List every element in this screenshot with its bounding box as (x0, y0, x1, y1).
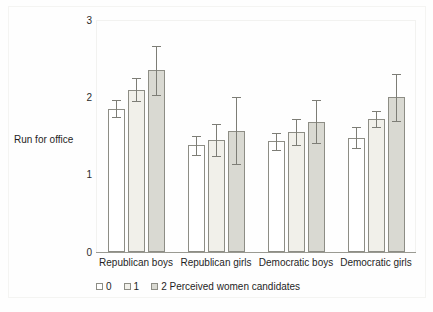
error-bar-stem (276, 133, 277, 150)
error-bar-stem (236, 97, 237, 164)
bar-democratic-girls-series-1 (368, 119, 385, 252)
x-axis-label-republican-girls: Republican girls (176, 257, 256, 268)
error-bar-cap-upper (232, 97, 241, 98)
legend-label-1: 1 (134, 281, 140, 292)
error-bar-cap-lower (272, 150, 281, 151)
bar-republican-boys-series-1 (128, 90, 145, 252)
error-bar-cap-lower (352, 148, 361, 149)
y-tick-label-2: 2 (68, 92, 92, 103)
y-tick-label-1: 1 (68, 169, 92, 180)
error-bar-cap-upper (392, 74, 401, 75)
error-bar-cap-upper (312, 100, 321, 101)
error-bar-cap-lower (192, 155, 201, 156)
error-bar-cap-upper (352, 127, 361, 128)
legend-swatch-icon-0 (96, 283, 103, 290)
legend-label-0: 0 (106, 281, 112, 292)
error-bar-cap-upper (152, 46, 161, 47)
error-bar-cap-lower (292, 145, 301, 146)
legend-entry-0[interactable]: 0 (96, 281, 112, 292)
error-bar-cap-upper (132, 78, 141, 79)
error-bar-cap-upper (372, 111, 381, 112)
bar-democratic-boys-series-0 (268, 141, 285, 252)
legend-entry-2[interactable]: 2 Perceived women candidates (151, 281, 300, 292)
error-bar-cap-lower (312, 143, 321, 144)
y-tick-label-0: 0 (68, 247, 92, 258)
error-bar-cap-lower (112, 117, 121, 118)
error-bar-stem (296, 119, 297, 145)
y-axis-title: Run for office (14, 134, 73, 145)
error-bar-cap-upper (292, 119, 301, 120)
legend: 012 Perceived women candidates (96, 281, 300, 292)
error-bar-cap-upper (212, 124, 221, 125)
bar-republican-boys-series-0 (108, 109, 125, 252)
error-bar-cap-lower (152, 95, 161, 96)
bar-democratic-boys-series-1 (288, 132, 305, 252)
bar-republican-girls-series-0 (188, 145, 205, 252)
x-axis-baseline (96, 252, 416, 253)
legend-label-2: 2 Perceived women candidates (161, 281, 300, 292)
x-axis-label-democratic-boys: Democratic boys (256, 257, 336, 268)
error-bar-stem (396, 74, 397, 121)
x-axis-label-republican-boys: Republican boys (96, 257, 176, 268)
error-bar-cap-lower (372, 127, 381, 128)
error-bar-cap-upper (192, 136, 201, 137)
error-bar-stem (216, 124, 217, 156)
bar-republican-boys-series-2 (148, 70, 165, 252)
error-bar-stem (116, 100, 117, 117)
y-tick-label-3: 3 (68, 15, 92, 26)
legend-entry-1[interactable]: 1 (124, 281, 140, 292)
error-bar-cap-lower (392, 121, 401, 122)
error-bar-stem (136, 78, 137, 101)
error-bar-cap-upper (112, 100, 121, 101)
legend-swatch-icon-2 (151, 283, 158, 290)
error-bar-stem (156, 46, 157, 95)
legend-swatch-icon-1 (124, 283, 131, 290)
error-bar-cap-lower (232, 164, 241, 165)
error-bar-cap-lower (212, 156, 221, 157)
x-axis-label-democratic-girls: Democratic girls (336, 257, 416, 268)
error-bar-stem (196, 136, 197, 155)
bar-democratic-girls-series-0 (348, 138, 365, 252)
error-bar-stem (356, 127, 357, 147)
error-bar-stem (376, 111, 377, 126)
error-bar-cap-lower (132, 101, 141, 102)
error-bar-stem (316, 100, 317, 143)
error-bar-cap-upper (272, 133, 281, 134)
chart-screenshot: 3 2 1 0 Run for office Republican boysRe… (0, 0, 433, 312)
